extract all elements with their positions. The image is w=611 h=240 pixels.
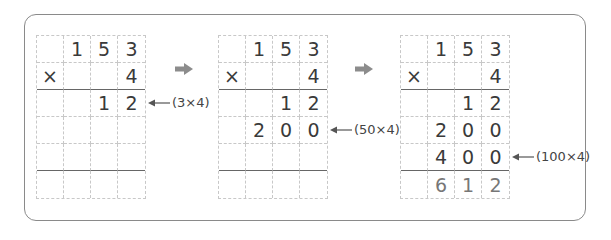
grid-cell xyxy=(300,171,327,198)
grid-cell: 1 xyxy=(273,90,300,117)
grid-cell: 1 xyxy=(246,36,273,63)
grid-cell xyxy=(219,117,246,144)
grid-cell xyxy=(219,144,246,171)
grid-cell: 2 xyxy=(118,90,145,117)
grid-cell: 0 xyxy=(482,144,509,171)
grid-cell xyxy=(401,171,428,198)
left-arrow-icon xyxy=(512,152,534,162)
grid-cell: 1 xyxy=(455,171,482,198)
grid-cell: 1 xyxy=(91,90,118,117)
grid-cell: × xyxy=(401,63,428,90)
grid-cell: 6 xyxy=(428,171,455,198)
grid-cell xyxy=(64,171,91,198)
annotation-text: (100×4) xyxy=(536,149,590,164)
grid-cell xyxy=(273,63,300,90)
grid-cell xyxy=(246,63,273,90)
grid-cell: 0 xyxy=(482,117,509,144)
grid-cell: 5 xyxy=(91,36,118,63)
grid-cell: 0 xyxy=(300,117,327,144)
multiplication-grid-3: 153×412200400612 xyxy=(400,35,510,199)
grid-cell xyxy=(64,117,91,144)
annotation-text: (3×4) xyxy=(172,95,210,110)
grid-cell xyxy=(37,90,64,117)
grid-cell xyxy=(273,171,300,198)
grid-cell xyxy=(37,171,64,198)
grid-cell: 0 xyxy=(455,117,482,144)
grid-cell xyxy=(401,144,428,171)
grid-cell: 3 xyxy=(482,36,509,63)
grid-cell xyxy=(219,90,246,117)
grid-cell xyxy=(118,117,145,144)
grid-cell: 1 xyxy=(64,36,91,63)
grid-cell: 4 xyxy=(118,63,145,90)
step-annotation: (3×4) xyxy=(148,95,210,110)
next-step-arrow-icon xyxy=(355,63,373,75)
grid-cell xyxy=(428,63,455,90)
grid-cell: 0 xyxy=(455,144,482,171)
grid-cell: 5 xyxy=(455,36,482,63)
step-annotation: (100×4) xyxy=(512,149,590,164)
grid-cell: 3 xyxy=(300,36,327,63)
grid-cell: 1 xyxy=(428,36,455,63)
grid-cell: × xyxy=(219,63,246,90)
grid-cell xyxy=(300,144,327,171)
grid-cell: × xyxy=(37,63,64,90)
grid-cell: 4 xyxy=(482,63,509,90)
next-step-arrow-icon xyxy=(175,63,193,75)
grid-cell xyxy=(91,63,118,90)
multiplication-grid-1: 153×412 xyxy=(36,35,146,199)
grid-cell xyxy=(219,171,246,198)
grid-cell: 3 xyxy=(118,36,145,63)
grid-cell xyxy=(91,144,118,171)
left-arrow-icon xyxy=(148,98,170,108)
grid-cell xyxy=(37,117,64,144)
multiplication-grid-2: 153×412200 xyxy=(218,35,328,199)
grid-cell: 1 xyxy=(455,90,482,117)
grid-cell xyxy=(91,171,118,198)
grid-cell xyxy=(91,117,118,144)
grid-cell xyxy=(118,171,145,198)
grid-cell: 2 xyxy=(300,90,327,117)
grid-cell xyxy=(64,63,91,90)
grid-cell xyxy=(428,90,455,117)
grid-cell xyxy=(273,144,300,171)
grid-cell xyxy=(246,144,273,171)
grid-cell xyxy=(64,90,91,117)
grid-cell: 2 xyxy=(482,171,509,198)
grid-cell xyxy=(246,171,273,198)
step-annotation: (50×4) xyxy=(330,122,400,137)
grid-cell xyxy=(401,90,428,117)
grid-cell: 0 xyxy=(273,117,300,144)
grid-cell xyxy=(401,36,428,63)
annotation-text: (50×4) xyxy=(354,122,400,137)
grid-cell xyxy=(401,117,428,144)
grid-cell xyxy=(455,63,482,90)
grid-cell xyxy=(37,36,64,63)
grid-cell xyxy=(118,144,145,171)
grid-cell: 2 xyxy=(428,117,455,144)
grid-cell: 5 xyxy=(273,36,300,63)
grid-cell xyxy=(64,144,91,171)
grid-cell xyxy=(219,36,246,63)
grid-cell: 4 xyxy=(428,144,455,171)
grid-cell: 2 xyxy=(246,117,273,144)
left-arrow-icon xyxy=(330,125,352,135)
grid-cell xyxy=(246,90,273,117)
grid-cell: 4 xyxy=(300,63,327,90)
grid-cell: 2 xyxy=(482,90,509,117)
grid-cell xyxy=(37,144,64,171)
